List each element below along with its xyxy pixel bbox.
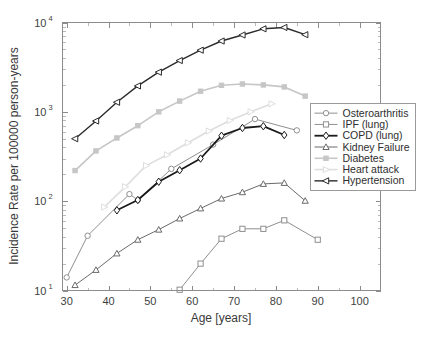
svg-text:4: 4 <box>49 14 53 23</box>
data-point <box>302 32 308 38</box>
data-point <box>177 167 182 174</box>
series-line <box>180 220 318 289</box>
series-line <box>117 126 284 210</box>
legend-label: COPD (lung) <box>343 129 403 141</box>
x-tick-label: 100 <box>350 295 368 307</box>
legend-label: Diabetes <box>343 152 384 164</box>
data-point <box>72 282 78 288</box>
y-tick-label: 102 <box>34 192 52 207</box>
legend-label: Heart attack <box>343 163 400 175</box>
data-point <box>260 26 266 32</box>
data-point <box>198 89 202 93</box>
data-point <box>303 94 307 98</box>
y-tick-label: 103 <box>34 103 52 118</box>
legend-label: Osteroarthritis <box>343 107 409 119</box>
data-point <box>64 275 69 280</box>
series-ipf-lung <box>177 218 320 293</box>
data-point <box>281 24 287 30</box>
x-tick-label: 30 <box>61 295 73 307</box>
series-osteroarthritis <box>64 116 300 280</box>
legend-label: Hypertension <box>343 174 405 186</box>
data-point <box>294 128 299 133</box>
series-diabetes <box>73 82 308 173</box>
data-point <box>197 205 203 211</box>
series-layer <box>64 24 320 292</box>
x-tick-label: 40 <box>102 295 114 307</box>
data-point <box>219 236 224 241</box>
data-point <box>169 166 174 171</box>
data-point <box>156 227 162 233</box>
y-axis-title: Incidence Rate per 100000 person-years <box>7 47 21 264</box>
data-point <box>197 47 203 53</box>
data-point <box>282 85 286 89</box>
data-point <box>323 110 328 115</box>
data-point <box>219 83 223 87</box>
x-axis-title: Age [years] <box>191 311 252 325</box>
data-point <box>72 136 78 142</box>
series-line <box>75 183 305 285</box>
data-point <box>324 156 328 160</box>
data-point <box>269 101 275 107</box>
data-point <box>73 168 77 172</box>
data-point <box>177 99 181 103</box>
data-point <box>261 123 266 130</box>
data-point <box>136 123 140 127</box>
data-point <box>177 215 183 221</box>
legend-label: Kidney Failure <box>343 141 410 153</box>
incidence-rate-line-chart: 30405060708090100101102103104 Age [years… <box>0 0 423 340</box>
svg-text:3: 3 <box>49 103 53 112</box>
data-point <box>227 117 233 123</box>
data-point <box>248 109 254 115</box>
series-line <box>67 119 297 277</box>
data-point <box>218 38 224 44</box>
data-point <box>240 82 244 86</box>
data-point <box>315 237 320 242</box>
data-point <box>261 83 265 87</box>
chart-figure: 30405060708090100101102103104 Age [years… <box>0 0 423 340</box>
x-tick-label: 70 <box>228 295 240 307</box>
data-point <box>157 110 161 114</box>
svg-text:10: 10 <box>34 17 46 29</box>
data-point <box>115 136 119 140</box>
data-point <box>239 32 245 38</box>
data-point <box>282 131 287 138</box>
data-point <box>127 191 132 196</box>
series-kidney-failure <box>72 180 308 288</box>
y-tick-label: 104 <box>34 14 52 29</box>
axis-titles: Age [years] Incidence Rate per 100000 pe… <box>7 47 251 325</box>
data-point <box>239 189 245 195</box>
data-point <box>261 226 266 231</box>
series-line <box>75 28 305 139</box>
data-point <box>198 261 203 266</box>
chart-legend: OsteroarthritisIPF (lung)COPD (lung)Kidn… <box>311 104 416 191</box>
svg-text:1: 1 <box>49 282 53 291</box>
x-tick-label: 60 <box>186 295 198 307</box>
svg-text:10: 10 <box>34 106 46 118</box>
data-point <box>282 218 287 223</box>
legend-label: IPF (lung) <box>343 118 389 130</box>
x-tick-label: 90 <box>312 295 324 307</box>
data-point <box>177 287 182 292</box>
x-tick-label: 80 <box>270 295 282 307</box>
x-tick-label: 50 <box>144 295 156 307</box>
data-point <box>94 149 98 153</box>
data-point <box>135 237 141 243</box>
data-point <box>114 250 120 256</box>
data-point <box>85 233 90 238</box>
y-tick-label: 101 <box>34 282 52 297</box>
data-point <box>240 226 245 231</box>
data-point <box>252 116 257 121</box>
svg-text:2: 2 <box>49 192 53 201</box>
svg-text:10: 10 <box>34 195 46 207</box>
data-point <box>323 122 328 127</box>
svg-text:10: 10 <box>34 285 46 297</box>
data-point <box>114 207 119 214</box>
